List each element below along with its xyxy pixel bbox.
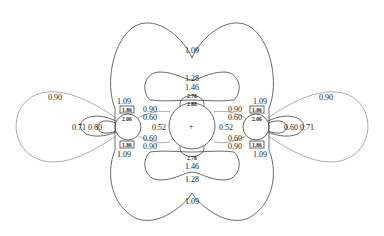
label-right-206: 2.06 xyxy=(252,116,262,122)
label-left-109-bottom: 1.09 xyxy=(117,150,131,159)
label-right-090-outer: 0.90 xyxy=(319,93,333,102)
label-left-inner-060-top: 0.60 xyxy=(143,113,157,122)
label-bottom-278: 2.78 xyxy=(187,155,197,161)
label-center-right: 0.52 xyxy=(219,123,233,132)
label-right-109-top: 1.09 xyxy=(253,97,267,106)
label-left-109-top: 1.09 xyxy=(117,97,131,106)
label-left-186-bottom: 1.86 xyxy=(122,142,132,148)
label-left-206: 2.06 xyxy=(122,116,132,122)
contour-0-90-right xyxy=(268,92,368,162)
label-right-186-bottom: 1.86 xyxy=(252,142,262,148)
label-bottom-128: 1.28 xyxy=(185,175,199,184)
label-bottom-146: 1.46 xyxy=(185,162,199,171)
label-left-186-top: 1.86 xyxy=(122,107,132,113)
center-marker: + xyxy=(189,122,194,131)
label-right-060: 0.60 xyxy=(284,123,298,132)
label-left-090-outer: 0.90 xyxy=(48,93,62,102)
label-right-071: 0.71 xyxy=(300,123,314,132)
label-left-060: 0.60 xyxy=(88,123,102,132)
label-right-inner-060-top: 0.60 xyxy=(228,113,242,122)
label-top-288: 2.88 xyxy=(187,101,197,107)
label-left-inner-090-bottom: 0.90 xyxy=(143,142,157,151)
label-right-inner-090-bottom: 0.90 xyxy=(228,142,242,151)
label-left-071: 0.71 xyxy=(72,123,86,132)
contour-diagram: 1.09 1.28 1.46 1.46 1.28 1.09 0.52 0.52 … xyxy=(0,0,384,236)
label-right-109-bottom: 1.09 xyxy=(253,150,267,159)
label-top-outer: 1.09 xyxy=(185,46,199,55)
label-top-278: 2.78 xyxy=(187,93,197,99)
label-bottom-outer: 1.09 xyxy=(185,197,199,206)
label-center-left: 0.52 xyxy=(152,123,166,132)
label-top-128: 1.28 xyxy=(185,74,199,83)
label-top-146: 1.46 xyxy=(185,83,199,92)
label-right-186-top: 1.86 xyxy=(252,107,262,113)
